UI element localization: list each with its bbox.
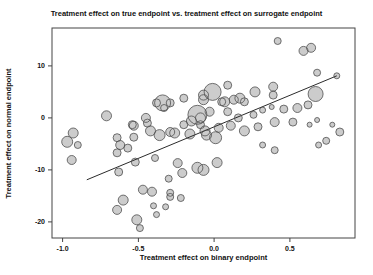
x-tick-label: -1.0 <box>57 245 69 252</box>
x-axis-title: Treatment effect on binary endpoint <box>52 253 355 262</box>
y-tick-label: -10 <box>35 166 45 173</box>
y-tick-label: 10 <box>37 62 45 69</box>
scatter-plot-canvas: -1.0-0.50.00.5100-10-20 <box>0 0 373 275</box>
x-tick-label: 0.5 <box>285 245 295 252</box>
bubble-chart-figure: Treatment effect on true endpoint vs. tr… <box>0 0 373 275</box>
x-tick-label: -0.5 <box>132 245 144 252</box>
y-axis-title: Treatment effect on normal endpoint <box>4 64 13 204</box>
y-tick-label: 0 <box>41 114 45 121</box>
chart-title: Treatment effect on true endpoint vs. tr… <box>0 9 373 18</box>
y-tick-label: -20 <box>35 218 45 225</box>
x-tick-label: 0.0 <box>209 245 219 252</box>
